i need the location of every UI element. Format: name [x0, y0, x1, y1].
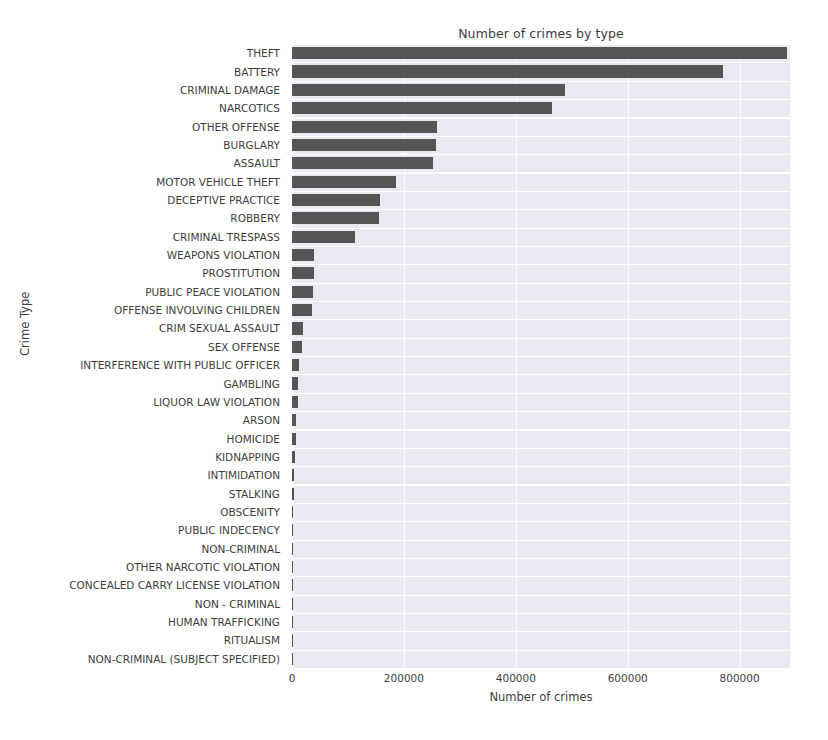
- bar: [292, 84, 565, 96]
- gridline-horizontal: [292, 613, 790, 614]
- y-axis-tick-label: BATTERY: [234, 66, 280, 77]
- gridline-horizontal: [292, 411, 790, 412]
- y-axis-tick-label: NON-CRIMINAL: [201, 543, 280, 554]
- bar: [292, 157, 433, 169]
- bar: [292, 488, 294, 500]
- y-axis-tick-label: CRIMINAL TRESPASS: [173, 231, 280, 242]
- bar: [292, 322, 303, 334]
- bar: [292, 47, 787, 59]
- gridline-horizontal: [292, 154, 790, 155]
- gridline-horizontal: [292, 319, 790, 320]
- bar: [292, 451, 295, 463]
- gridline-horizontal: [292, 62, 790, 63]
- gridline-horizontal: [292, 191, 790, 192]
- y-axis-tick-label: NARCOTICS: [219, 103, 280, 114]
- gridline-horizontal: [292, 99, 790, 100]
- gridline-horizontal: [292, 301, 790, 302]
- y-axis-tick-label: OBSCENITY: [220, 507, 280, 518]
- bar: [292, 634, 293, 646]
- y-axis-tick-label: STALKING: [229, 488, 280, 499]
- y-axis-tick-label: LIQUOR LAW VIOLATION: [153, 396, 280, 407]
- y-axis-tick-label: CRIM SEXUAL ASSAULT: [159, 323, 280, 334]
- y-axis-tick-label: OTHER NARCOTIC VIOLATION: [126, 562, 280, 573]
- x-axis-tick-label: 800000: [720, 672, 760, 684]
- x-axis-tick-label: 0: [289, 672, 296, 684]
- y-axis-tick-label: INTERFERENCE WITH PUBLIC OFFICER: [80, 360, 280, 371]
- bar: [292, 359, 299, 371]
- y-axis-tick-label: DECEPTIVE PRACTICE: [167, 195, 280, 206]
- y-axis-tick-label: NON - CRIMINAL: [195, 598, 280, 609]
- gridline-horizontal: [292, 393, 790, 394]
- bar: [292, 121, 437, 133]
- gridline-horizontal: [292, 484, 790, 485]
- y-axis-tick-label: ARSON: [243, 415, 280, 426]
- gridline-horizontal: [292, 264, 790, 265]
- y-axis-title: Crime Type: [18, 292, 32, 356]
- bar: [292, 524, 293, 536]
- gridline-horizontal: [292, 466, 790, 467]
- y-axis-tick-label: HUMAN TRAFFICKING: [168, 617, 280, 628]
- bar: [292, 377, 298, 389]
- gridline-horizontal: [292, 374, 790, 375]
- gridline-horizontal: [292, 81, 790, 82]
- y-axis-tick-label: WEAPONS VIOLATION: [167, 250, 280, 261]
- y-axis-tick-label: CRIMINAL DAMAGE: [180, 84, 280, 95]
- bar: [292, 396, 298, 408]
- y-axis-tick-label: PUBLIC PEACE VIOLATION: [145, 286, 280, 297]
- gridline-horizontal: [292, 228, 790, 229]
- bar: [292, 543, 293, 555]
- y-axis-tick-label: RITUALISM: [224, 635, 280, 646]
- bar: [292, 341, 302, 353]
- y-axis-tick-label: ROBBERY: [230, 213, 280, 224]
- bar: [292, 176, 396, 188]
- x-axis-tick-labels: 0200000400000600000800000: [0, 672, 828, 688]
- gridline-horizontal: [292, 631, 790, 632]
- bar: [292, 231, 355, 243]
- chart-title: Number of crimes by type: [292, 26, 790, 41]
- x-axis-tick-label: 200000: [384, 672, 424, 684]
- crime-bar-chart-figure: Number of crimes by type THEFTBATTERYCRI…: [0, 0, 828, 740]
- gridline-horizontal: [292, 521, 790, 522]
- bar: [292, 267, 314, 279]
- gridline-horizontal: [292, 136, 790, 137]
- y-axis-tick-label: OFFENSE INVOLVING CHILDREN: [114, 305, 280, 316]
- gridline-horizontal: [292, 558, 790, 559]
- bar: [292, 616, 293, 628]
- bar: [292, 506, 293, 518]
- y-axis-tick-label: ASSAULT: [234, 158, 280, 169]
- bar: [292, 65, 723, 77]
- y-axis-tick-label: MOTOR VEHICLE THEFT: [156, 176, 280, 187]
- gridline-horizontal: [292, 668, 790, 669]
- gridline-horizontal: [292, 356, 790, 357]
- gridline-horizontal: [292, 44, 790, 45]
- gridline-horizontal: [292, 448, 790, 449]
- y-axis-tick-label: GAMBLING: [223, 378, 280, 389]
- bar: [292, 598, 293, 610]
- bar: [292, 194, 380, 206]
- gridline-horizontal: [292, 209, 790, 210]
- bar: [292, 579, 293, 591]
- y-axis-tick-label: PUBLIC INDECENCY: [178, 525, 280, 536]
- bar: [292, 139, 436, 151]
- bar: [292, 249, 314, 261]
- bar: [292, 304, 312, 316]
- y-axis-tick-label: THEFT: [247, 48, 280, 59]
- bar: [292, 212, 379, 224]
- y-axis-tick-label: HOMICIDE: [227, 433, 280, 444]
- gridline-horizontal: [292, 172, 790, 173]
- y-axis-tick-label: INTIMIDATION: [207, 470, 280, 481]
- x-axis-tick-label: 400000: [496, 672, 536, 684]
- gridline-horizontal: [292, 429, 790, 430]
- y-axis-tick-label: BURGLARY: [223, 139, 280, 150]
- bar: [292, 469, 294, 481]
- gridline-horizontal: [292, 117, 790, 118]
- y-axis-tick-label: PROSTITUTION: [202, 268, 280, 279]
- gridline-horizontal: [292, 283, 790, 284]
- y-axis-tick-label: KIDNAPPING: [215, 451, 280, 462]
- bar: [292, 414, 296, 426]
- gridline-horizontal: [292, 576, 790, 577]
- gridline-horizontal: [292, 595, 790, 596]
- bar: [292, 286, 313, 298]
- bar: [292, 653, 293, 665]
- bar: [292, 433, 296, 445]
